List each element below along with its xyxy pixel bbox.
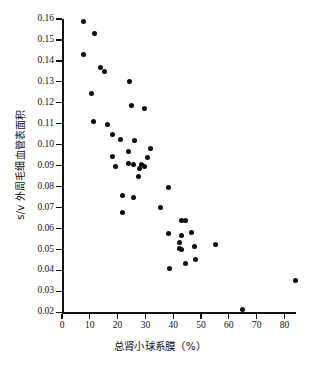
data-point — [127, 79, 132, 84]
data-point — [213, 242, 218, 247]
data-point — [105, 122, 110, 127]
data-point — [145, 155, 150, 160]
data-point — [240, 307, 245, 312]
data-point — [179, 233, 184, 238]
data-point — [148, 146, 153, 151]
data-point — [126, 149, 131, 154]
data-point — [166, 185, 171, 190]
data-points-layer — [0, 0, 320, 367]
data-point — [81, 19, 86, 24]
data-point — [142, 106, 147, 111]
data-point — [183, 218, 188, 223]
y-axis-title: s/v 外周毛细血管表面积 — [12, 30, 27, 300]
data-point — [92, 31, 97, 36]
data-point — [158, 205, 163, 210]
data-point — [192, 244, 197, 249]
data-point — [110, 132, 115, 137]
data-point — [81, 52, 86, 57]
data-point — [177, 240, 182, 245]
data-point — [110, 154, 115, 159]
data-point — [131, 162, 136, 167]
data-point — [166, 231, 171, 236]
data-point — [179, 247, 184, 252]
data-point — [142, 164, 147, 169]
data-point — [167, 266, 172, 271]
scatter-chart: 0.020.030.040.050.060.070.080.090.100.11… — [0, 0, 320, 367]
x-axis-title: 总肾小球系膜（%） — [0, 338, 320, 353]
data-point — [120, 193, 125, 198]
data-point — [189, 230, 194, 235]
data-point — [183, 261, 188, 266]
data-point — [91, 119, 96, 124]
data-point — [193, 257, 198, 262]
data-point — [102, 69, 107, 74]
data-point — [113, 164, 118, 169]
data-point — [136, 174, 141, 179]
data-point — [137, 166, 142, 171]
data-point — [293, 278, 298, 283]
data-point — [89, 91, 94, 96]
data-point — [132, 138, 137, 143]
data-point — [131, 195, 136, 200]
data-point — [129, 103, 134, 108]
data-point — [118, 137, 123, 142]
data-point — [120, 210, 125, 215]
